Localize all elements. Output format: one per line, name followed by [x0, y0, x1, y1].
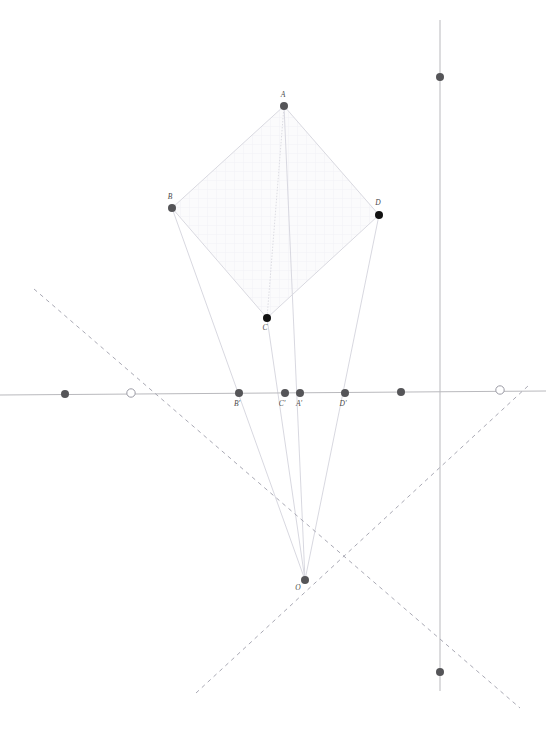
label-O: O: [295, 583, 301, 592]
label-A: A: [280, 90, 286, 99]
point-U2[interactable]: [496, 386, 504, 394]
dashed-line-layer: [34, 289, 528, 708]
label-Dp: D': [338, 399, 346, 408]
dashed-line-descending: [34, 289, 520, 708]
horizontal-axis: [0, 391, 546, 395]
point-P2[interactable]: [397, 388, 405, 396]
dashed-line-ascending: [196, 386, 528, 693]
point-Cp[interactable]: [281, 389, 289, 397]
point-B[interactable]: [168, 204, 176, 212]
label-D: D: [374, 198, 381, 207]
label-Cp: C': [279, 399, 286, 408]
point-O[interactable]: [301, 576, 309, 584]
point-C[interactable]: [263, 314, 271, 322]
point-A[interactable]: [280, 102, 288, 110]
label-Ap: A': [295, 399, 303, 408]
point-D[interactable]: [375, 211, 383, 219]
point-Dp[interactable]: [341, 389, 349, 397]
diagram-canvas: ABCDB'C'A'D'O: [0, 0, 546, 729]
point-P1[interactable]: [61, 390, 69, 398]
label-B: B: [168, 192, 173, 201]
point-Bp[interactable]: [235, 389, 243, 397]
geometry-svg: ABCDB'C'A'D'O: [0, 0, 546, 729]
point-P3[interactable]: [436, 73, 444, 81]
label-Bp: B': [234, 399, 241, 408]
point-U1[interactable]: [127, 389, 135, 397]
point-Ap[interactable]: [296, 389, 304, 397]
point-P4[interactable]: [436, 668, 444, 676]
